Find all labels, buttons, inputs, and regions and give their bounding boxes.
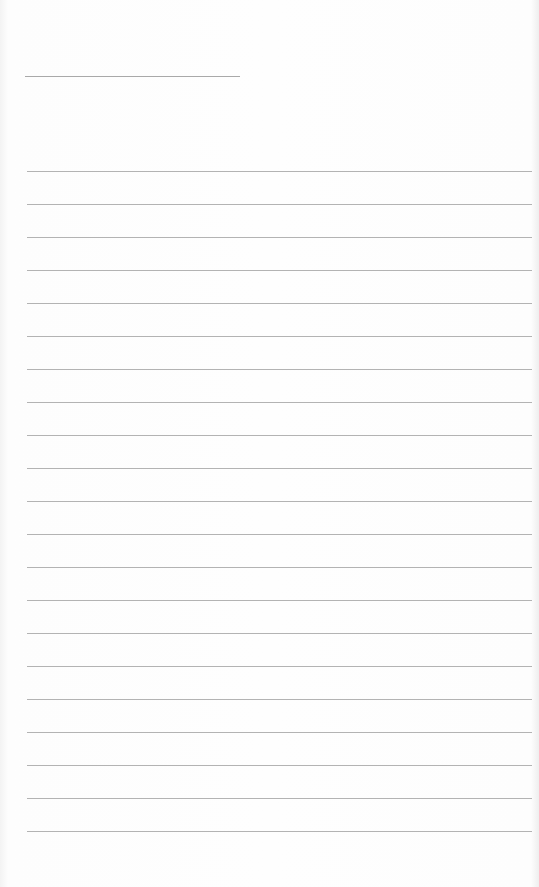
ruled-line: [27, 402, 532, 403]
ruled-line: [27, 336, 532, 337]
ruled-line: [27, 666, 532, 667]
ruled-line: [27, 270, 532, 271]
ruled-line: [27, 732, 532, 733]
ruled-line: [27, 237, 532, 238]
ruled-line: [27, 303, 532, 304]
title-underline: [25, 76, 240, 77]
ruled-line: [27, 699, 532, 700]
ruled-line: [27, 798, 532, 799]
ruled-line: [27, 501, 532, 502]
ruled-line: [27, 534, 532, 535]
ruled-line: [27, 435, 532, 436]
ruled-line: [27, 633, 532, 634]
ruled-line: [27, 765, 532, 766]
ruled-line: [27, 831, 532, 832]
ruled-line: [27, 369, 532, 370]
ruled-line: [27, 468, 532, 469]
ruled-line: [27, 171, 532, 172]
ruled-line: [27, 567, 532, 568]
ruled-line: [27, 600, 532, 601]
ruled-line: [27, 204, 532, 205]
lined-paper-page: [0, 0, 539, 887]
